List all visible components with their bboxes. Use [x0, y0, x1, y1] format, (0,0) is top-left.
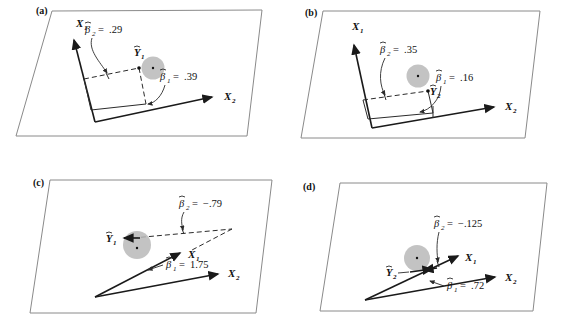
panel-d-tag: (d) — [303, 181, 315, 193]
panel-d-disk-center-dot — [416, 257, 418, 259]
panel-a-beta2-value: .29 — [109, 24, 122, 35]
panel-b-x1-sub: 1 — [360, 27, 364, 35]
panel-d-beta1-symbol: β — [446, 280, 453, 291]
panel-c-beta1-eq: = — [179, 259, 185, 270]
panel-a-beta1-sub: 1 — [167, 77, 171, 85]
panel-b-beta2-sub: 2 — [387, 50, 391, 58]
panel-b-beta1-value: .16 — [460, 72, 473, 83]
panel-d-x2-label: X — [504, 271, 513, 283]
panel-c-uncertainty-disk — [123, 231, 151, 259]
panel-a-beta2-eq: = — [98, 24, 104, 35]
panel-a-tag: (a) — [36, 5, 48, 17]
panel-a-beta2-sub: 2 — [92, 30, 96, 38]
panel-b-beta2-value: .35 — [404, 44, 417, 55]
panel-b-beta1-eq: = — [449, 72, 455, 83]
panel-b-x2-label: X — [504, 100, 513, 112]
panel-d-beta2-symbol: β — [433, 218, 440, 229]
panel-c-beta2-eq: = — [192, 198, 198, 209]
panel-b-x2-sub: 2 — [512, 107, 517, 115]
panel-b-disk-center-dot — [417, 75, 419, 77]
panel-b-x1-label: X — [351, 20, 360, 32]
panel-c-beta2-symbol: β — [178, 198, 185, 209]
panel-a-disk-center-dot — [152, 67, 154, 69]
panel-c-x2-label: X — [227, 267, 236, 279]
panel-a-x2-sub: 2 — [231, 97, 236, 105]
panel-b-tag: (b) — [305, 7, 317, 19]
plane-c — [30, 180, 272, 313]
panel-d-beta1-value: .72 — [471, 280, 484, 291]
panel-a: (a) X 1 X 2 Y 1 β 2 = — [16, 5, 262, 136]
panel-a-yhat-sub: 1 — [141, 53, 145, 61]
panel-c-beta2-value: −.79 — [203, 198, 222, 209]
panel-d-yhat-sub: 2 — [392, 273, 397, 281]
panel-a-x1-label: X — [75, 17, 84, 29]
panel-b: (b) X 1 X 2 Y 2 β 2 = — [301, 7, 540, 138]
panel-c-x2-sub: 2 — [235, 274, 240, 282]
panel-a-yhat-point — [137, 66, 141, 70]
panel-c: (c) X 1 X 2 Y 1 β 2 = −.79 — [30, 177, 272, 313]
panel-c-beta1-symbol: β — [165, 259, 172, 270]
panel-c-yhat-sub: 1 — [113, 239, 117, 247]
plane-d — [320, 183, 547, 311]
panel-a-beta1-symbol: β — [159, 71, 166, 82]
panel-d-beta2-value: −.125 — [458, 218, 482, 229]
panel-a-beta2-symbol: β — [84, 24, 91, 35]
panel-d-x2-sub: 2 — [512, 278, 517, 286]
panel-d: (d) X 1 X 2 Y 2 β 2 = −.125 — [303, 181, 547, 311]
panel-b-beta1-sub: 1 — [443, 78, 447, 86]
panel-d-beta1-sub: 1 — [454, 286, 458, 294]
panel-b-beta2-eq: = — [393, 44, 399, 55]
panel-c-beta1-value: 1.75 — [190, 259, 208, 270]
panel-c-beta2-sub: 2 — [186, 204, 190, 212]
panel-d-x1-label: X — [464, 251, 473, 263]
panel-a-beta1-value: .39 — [184, 71, 197, 82]
figure-svg: (a) X 1 X 2 Y 1 β 2 = — [0, 0, 561, 325]
plane-a — [16, 10, 262, 136]
panel-c-tag: (c) — [33, 177, 44, 189]
figure-container: (a) X 1 X 2 Y 1 β 2 = — [0, 0, 561, 325]
panel-a-beta1-eq: = — [173, 71, 179, 82]
panel-a-x2-label: X — [223, 90, 232, 102]
panel-b-beta1-symbol: β — [435, 72, 442, 83]
panel-d-beta1-eq: = — [460, 280, 466, 291]
panel-d-beta2-eq: = — [447, 218, 453, 229]
panel-b-beta2-symbol: β — [379, 44, 386, 55]
panel-d-x1-sub: 1 — [473, 258, 477, 266]
panel-d-beta2-sub: 2 — [441, 224, 445, 232]
panel-c-disk-center-dot — [136, 247, 138, 249]
panel-c-beta1-sub: 1 — [173, 265, 177, 273]
